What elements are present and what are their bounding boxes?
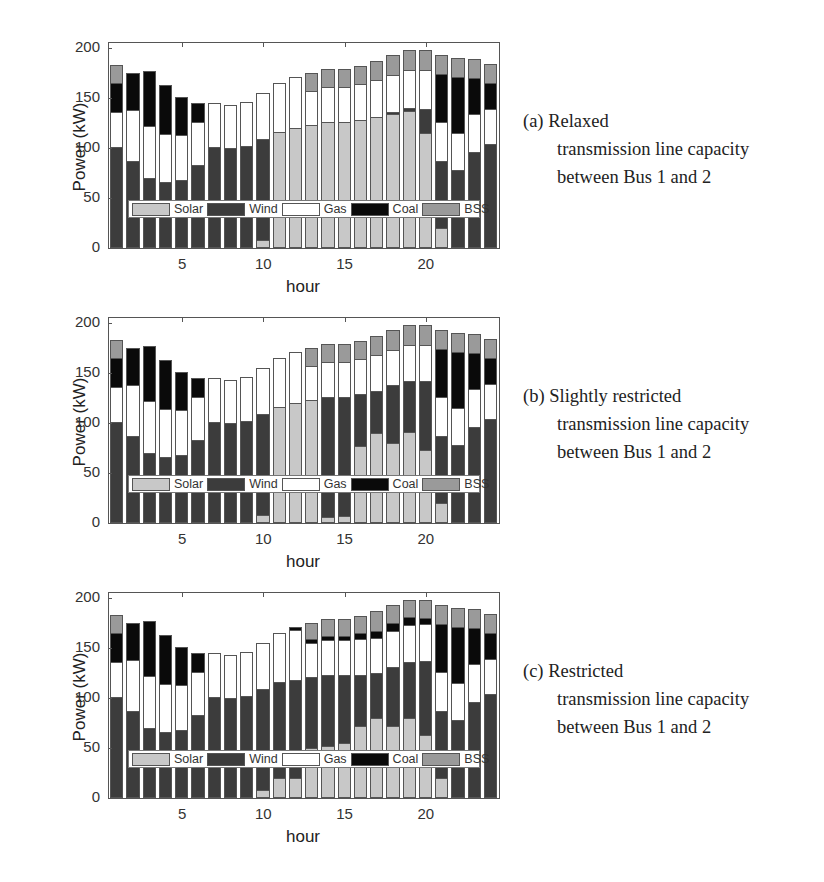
- segment-bss: [321, 344, 334, 362]
- segment-gas: [224, 655, 237, 698]
- bar-hour-13: [305, 73, 318, 248]
- bar-hour-16: [354, 341, 367, 523]
- bar-hour-23: [468, 334, 481, 523]
- segment-wind: [321, 397, 334, 517]
- segment-gas: [110, 662, 123, 697]
- legend-item-wind: Wind: [207, 477, 277, 491]
- segment-solar: [305, 400, 318, 523]
- segment-gas: [208, 103, 221, 147]
- bar-hour-22: [451, 608, 464, 798]
- bar-hour-12: [289, 627, 302, 798]
- bar-hour-20: [419, 50, 432, 248]
- bar-hour-19: [403, 600, 416, 798]
- segment-coal: [159, 85, 172, 134]
- segment-wind: [386, 385, 399, 443]
- segment-bss: [321, 69, 334, 87]
- segment-wind: [403, 662, 416, 718]
- x-axis-label: hour: [283, 552, 323, 572]
- y-tick-mark: [108, 598, 112, 599]
- segment-coal: [143, 346, 156, 401]
- bar-hour-10: [256, 643, 269, 798]
- segment-bss: [338, 619, 351, 636]
- bar-hour-23: [468, 59, 481, 248]
- segment-gas: [126, 385, 139, 436]
- y-tick-label: 150: [60, 363, 100, 380]
- bar-hour-20: [419, 600, 432, 798]
- y-tick-label: 200: [60, 588, 100, 605]
- segment-bss: [338, 69, 351, 87]
- panel-caption: (a) Relaxedtransmission line capacitybet…: [523, 107, 749, 191]
- chart-panel-a: Power (kW)0501001502005101520hourSolarWi…: [0, 30, 824, 310]
- x-tick-label: 20: [411, 255, 441, 272]
- segment-bss: [338, 344, 351, 362]
- segment-wind: [305, 677, 318, 748]
- segment-bss: [484, 614, 497, 633]
- legend-swatch-solar: [132, 203, 170, 216]
- segment-wind: [338, 675, 351, 743]
- segment-bss: [354, 66, 367, 84]
- x-tick-label: 5: [167, 805, 197, 822]
- legend-label: Solar: [174, 752, 203, 766]
- segment-bss: [419, 600, 432, 618]
- segment-bss: [468, 609, 481, 628]
- y-tick-mark: [108, 523, 112, 524]
- segment-gas: [468, 664, 481, 702]
- segment-bss: [370, 336, 383, 355]
- bar-hour-14: [321, 619, 334, 798]
- caption-line: (c) Restricted: [523, 657, 749, 685]
- segment-gas: [338, 640, 351, 675]
- legend-swatch-coal: [351, 753, 389, 766]
- bar-hour-10: [256, 368, 269, 523]
- legend-label: Gas: [324, 202, 347, 216]
- y-tick-mark: [108, 423, 112, 424]
- y-tick-mark: [108, 748, 112, 749]
- segment-coal: [126, 348, 139, 385]
- legend-swatch-bss: [422, 203, 460, 216]
- legend-swatch-coal: [351, 478, 389, 491]
- x-axis-label: hour: [283, 827, 323, 847]
- segment-solar: [256, 515, 269, 523]
- bar-hour-24: [484, 64, 497, 248]
- bar-hour-11: [273, 358, 286, 523]
- segment-bss: [305, 623, 318, 639]
- segment-gas: [451, 133, 464, 170]
- segment-wind: [224, 423, 237, 523]
- bar-hour-3: [143, 621, 156, 798]
- segment-bss: [484, 339, 497, 358]
- bar-hour-3: [143, 71, 156, 248]
- bar-hour-11: [273, 83, 286, 248]
- segment-bss: [468, 334, 481, 353]
- segment-bss: [110, 615, 123, 633]
- segment-gas: [143, 676, 156, 728]
- bar-hour-21: [435, 330, 448, 523]
- segment-gas: [240, 377, 253, 421]
- segment-solar: [273, 132, 286, 248]
- segment-coal: [435, 349, 448, 397]
- segment-gas: [435, 397, 448, 436]
- segment-bss: [305, 348, 318, 366]
- legend-swatch-solar: [132, 753, 170, 766]
- segment-coal: [175, 372, 188, 410]
- y-tick-mark: [108, 98, 112, 99]
- bar-hour-15: [338, 69, 351, 248]
- y-tick-label: 50: [60, 738, 100, 755]
- segment-bss: [435, 605, 448, 624]
- segment-gas: [256, 643, 269, 689]
- segment-bss: [403, 600, 416, 617]
- segment-gas: [159, 409, 172, 457]
- segment-wind: [256, 414, 269, 515]
- segment-coal: [159, 360, 172, 409]
- x-tick-label: 10: [248, 255, 278, 272]
- bar-hour-4: [159, 360, 172, 523]
- bar-hour-10: [256, 93, 269, 248]
- segment-gas: [175, 685, 188, 730]
- segment-wind: [419, 661, 432, 735]
- x-axis-label: hour: [283, 277, 323, 297]
- bar-hour-5: [175, 647, 188, 798]
- bar-hour-21: [435, 605, 448, 798]
- legend-item-coal: Coal: [351, 477, 419, 491]
- segment-solar: [321, 517, 334, 523]
- x-tick-mark: [345, 318, 346, 322]
- y-tick-mark: [108, 148, 112, 149]
- segment-solar: [386, 114, 399, 248]
